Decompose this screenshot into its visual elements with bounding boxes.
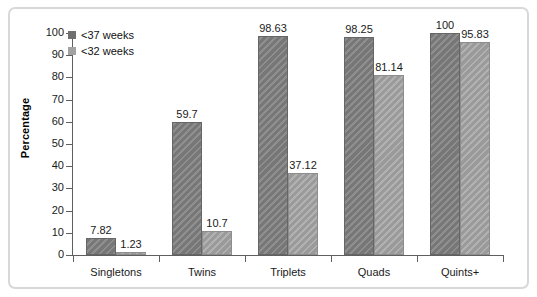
bar: [430, 33, 460, 255]
x-axis-tick: [159, 255, 160, 262]
y-axis-tick-label: 60: [34, 116, 64, 127]
bar-value-label: 98.63: [250, 22, 296, 34]
y-axis-tick-label: 30: [34, 182, 64, 193]
bar-value-label: 37.12: [280, 159, 326, 171]
x-axis-tick: [73, 255, 74, 262]
bar: [202, 231, 232, 255]
legend-item: <32 weeks: [68, 44, 134, 57]
y-axis-tick: [66, 211, 73, 212]
x-axis-label-quads: Quads: [329, 266, 419, 279]
bar: [116, 252, 146, 255]
bar: [288, 173, 318, 255]
bar-value-label: 10.7: [194, 217, 240, 229]
x-axis-tick: [331, 255, 332, 262]
y-axis-tick: [66, 255, 73, 256]
bar-value-label: 59.7: [164, 108, 210, 120]
bar: [374, 75, 404, 255]
y-axis-tick: [66, 188, 73, 189]
bar: [172, 122, 202, 255]
x-axis-tick: [503, 255, 504, 262]
y-axis-tick-label: 50: [34, 138, 64, 149]
plot-area: 7.821.2359.710.798.6337.1298.2581.141009…: [73, 33, 503, 255]
x-axis-label-twins: Twins: [157, 266, 247, 279]
bar-value-label: 81.14: [366, 61, 412, 73]
y-axis-tick-label: 100: [34, 27, 64, 38]
y-axis-tick-label: 40: [34, 160, 64, 171]
bar-value-label: 98.25: [336, 23, 382, 35]
bar: [258, 36, 288, 255]
legend-item: <37 weeks: [68, 28, 134, 41]
y-axis-tick-label: 80: [34, 71, 64, 82]
x-axis-tick: [417, 255, 418, 262]
legend-label: <37 weeks: [81, 29, 134, 41]
bar-value-label: 1.23: [108, 238, 154, 250]
x-axis-tick: [245, 255, 246, 262]
y-axis-tick: [66, 233, 73, 234]
legend-swatch-icon: [68, 31, 76, 39]
chart-legend: <37 weeks<32 weeks: [68, 28, 134, 57]
y-axis-tick: [66, 144, 73, 145]
y-axis-title: Percentage: [19, 83, 31, 173]
x-axis-line: [72, 255, 504, 256]
y-axis-tick: [66, 166, 73, 167]
bar: [460, 42, 490, 255]
y-axis-tick-label: 10: [34, 227, 64, 238]
legend-label: <32 weeks: [81, 45, 134, 57]
y-axis-tick-label: 90: [34, 49, 64, 60]
x-axis-label-triplets: Triplets: [243, 266, 333, 279]
y-axis-tick-labels: 0102030405060708090100: [26, 0, 64, 297]
bar-chart-figure: 0102030405060708090100 Percentage 7.821.…: [0, 0, 537, 297]
y-axis-tick: [66, 100, 73, 101]
y-axis-tick-label: 0: [34, 249, 64, 260]
y-axis-tick-label: 20: [34, 205, 64, 216]
y-axis-tick: [66, 122, 73, 123]
x-axis-label-quints: Quints+: [415, 266, 505, 279]
bar-value-label: 7.82: [78, 224, 124, 236]
x-axis-label-singletons: Singletons: [71, 266, 161, 279]
y-axis-tick: [66, 77, 73, 78]
legend-swatch-icon: [68, 47, 76, 55]
y-axis-tick-label: 70: [34, 94, 64, 105]
bar-value-label: 95.83: [452, 28, 498, 40]
